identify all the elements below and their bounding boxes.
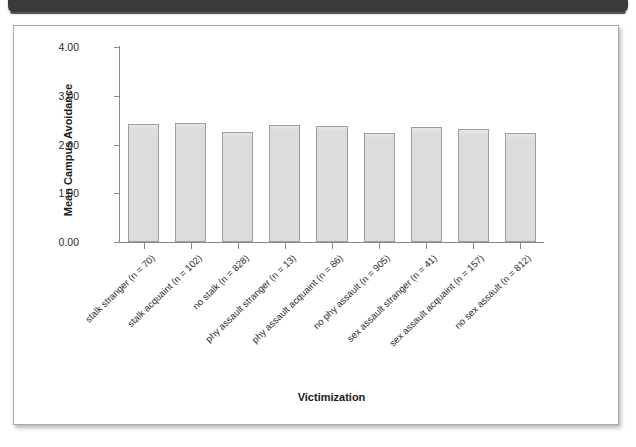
y-tick-label: 0.00 [19, 237, 79, 248]
x-tick-mark [332, 243, 333, 249]
bar [269, 125, 300, 242]
bar [316, 126, 347, 242]
bar [411, 127, 442, 242]
x-axis-title: Victimization [119, 391, 544, 403]
y-tick-label: 4.00 [19, 42, 79, 53]
y-tick-mark [114, 96, 120, 97]
x-tick-mark [379, 243, 380, 249]
bar [364, 133, 395, 242]
bar [505, 133, 536, 242]
y-tick-mark [114, 145, 120, 146]
y-tick-mark [114, 47, 120, 48]
bar [222, 132, 253, 242]
bar [128, 124, 159, 242]
x-tick-mark [426, 243, 427, 249]
figure-frame: Mean Campus Avoidance Victimization 0.00… [13, 25, 619, 425]
x-tick-mark [473, 243, 474, 249]
y-tick-label: 1.00 [19, 188, 79, 199]
bar [458, 129, 489, 242]
x-tick-mark [191, 243, 192, 249]
x-tick-mark [238, 243, 239, 249]
y-tick-label: 2.00 [19, 139, 79, 150]
y-tick-label: 3.00 [19, 91, 79, 102]
x-tick-mark [520, 243, 521, 249]
x-tick-mark [144, 243, 145, 249]
x-tick-mark [285, 243, 286, 249]
scan-edge-artifact [8, 0, 628, 13]
bar-chart-plot: Mean Campus Avoidance Victimization 0.00… [14, 26, 620, 426]
y-tick-mark [114, 193, 120, 194]
y-tick-mark [114, 242, 120, 243]
bar [175, 123, 206, 242]
